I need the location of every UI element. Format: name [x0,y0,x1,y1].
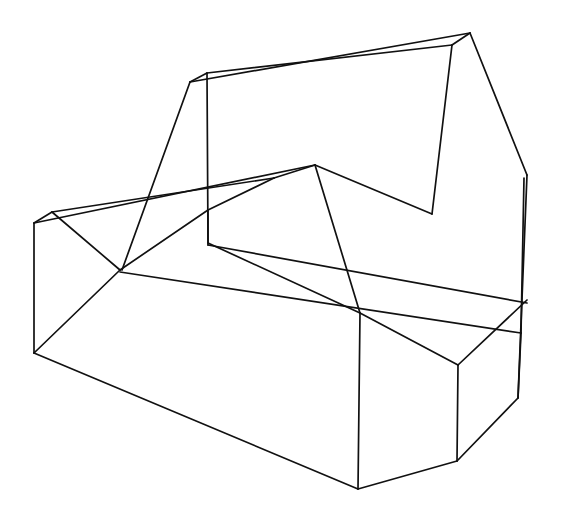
edge-step-right-vertical [457,365,458,461]
wireframe-drawing-canvas [0,0,575,520]
wireframe-figure-root [0,0,575,520]
